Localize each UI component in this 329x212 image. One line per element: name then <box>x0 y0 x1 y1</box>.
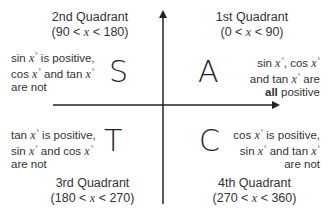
q1-title-block: 1st Quadrant (0 < x < 90) <box>202 10 302 40</box>
q3-letter-T: T <box>104 126 122 156</box>
q4-letter-C: C <box>199 126 220 156</box>
q3-title: 3rd Quadrant <box>40 176 145 191</box>
q2-description: sin x° is positive, cos x° and tan x° ar… <box>11 49 95 94</box>
q2-range: (90 < x < 180) <box>40 25 140 40</box>
q4-title: 4th Quadrant <box>202 176 307 191</box>
q2-letter-S: S <box>109 57 128 87</box>
q3-description: tan x° is positive, sin x° and cos x° ar… <box>11 126 96 171</box>
q4-description: cos x° is positive, sin x° and tan x° ar… <box>233 126 320 171</box>
q3-title-block: 3rd Quadrant (180 < x < 270) <box>40 176 145 206</box>
q2-title-block: 2nd Quadrant (90 < x < 180) <box>40 10 140 40</box>
q1-range: (0 < x < 90) <box>202 25 302 40</box>
q1-letter-A: A <box>198 57 219 87</box>
q1-title: 1st Quadrant <box>202 10 302 25</box>
q2-title: 2nd Quadrant <box>40 10 140 25</box>
q4-title-block: 4th Quadrant (270 < x < 360) <box>202 176 307 206</box>
q4-range: (270 < x < 360) <box>202 191 307 206</box>
q1-description: sin x°, cos x° and tan x° are all positi… <box>250 54 320 99</box>
q3-range: (180 < x < 270) <box>40 191 145 206</box>
